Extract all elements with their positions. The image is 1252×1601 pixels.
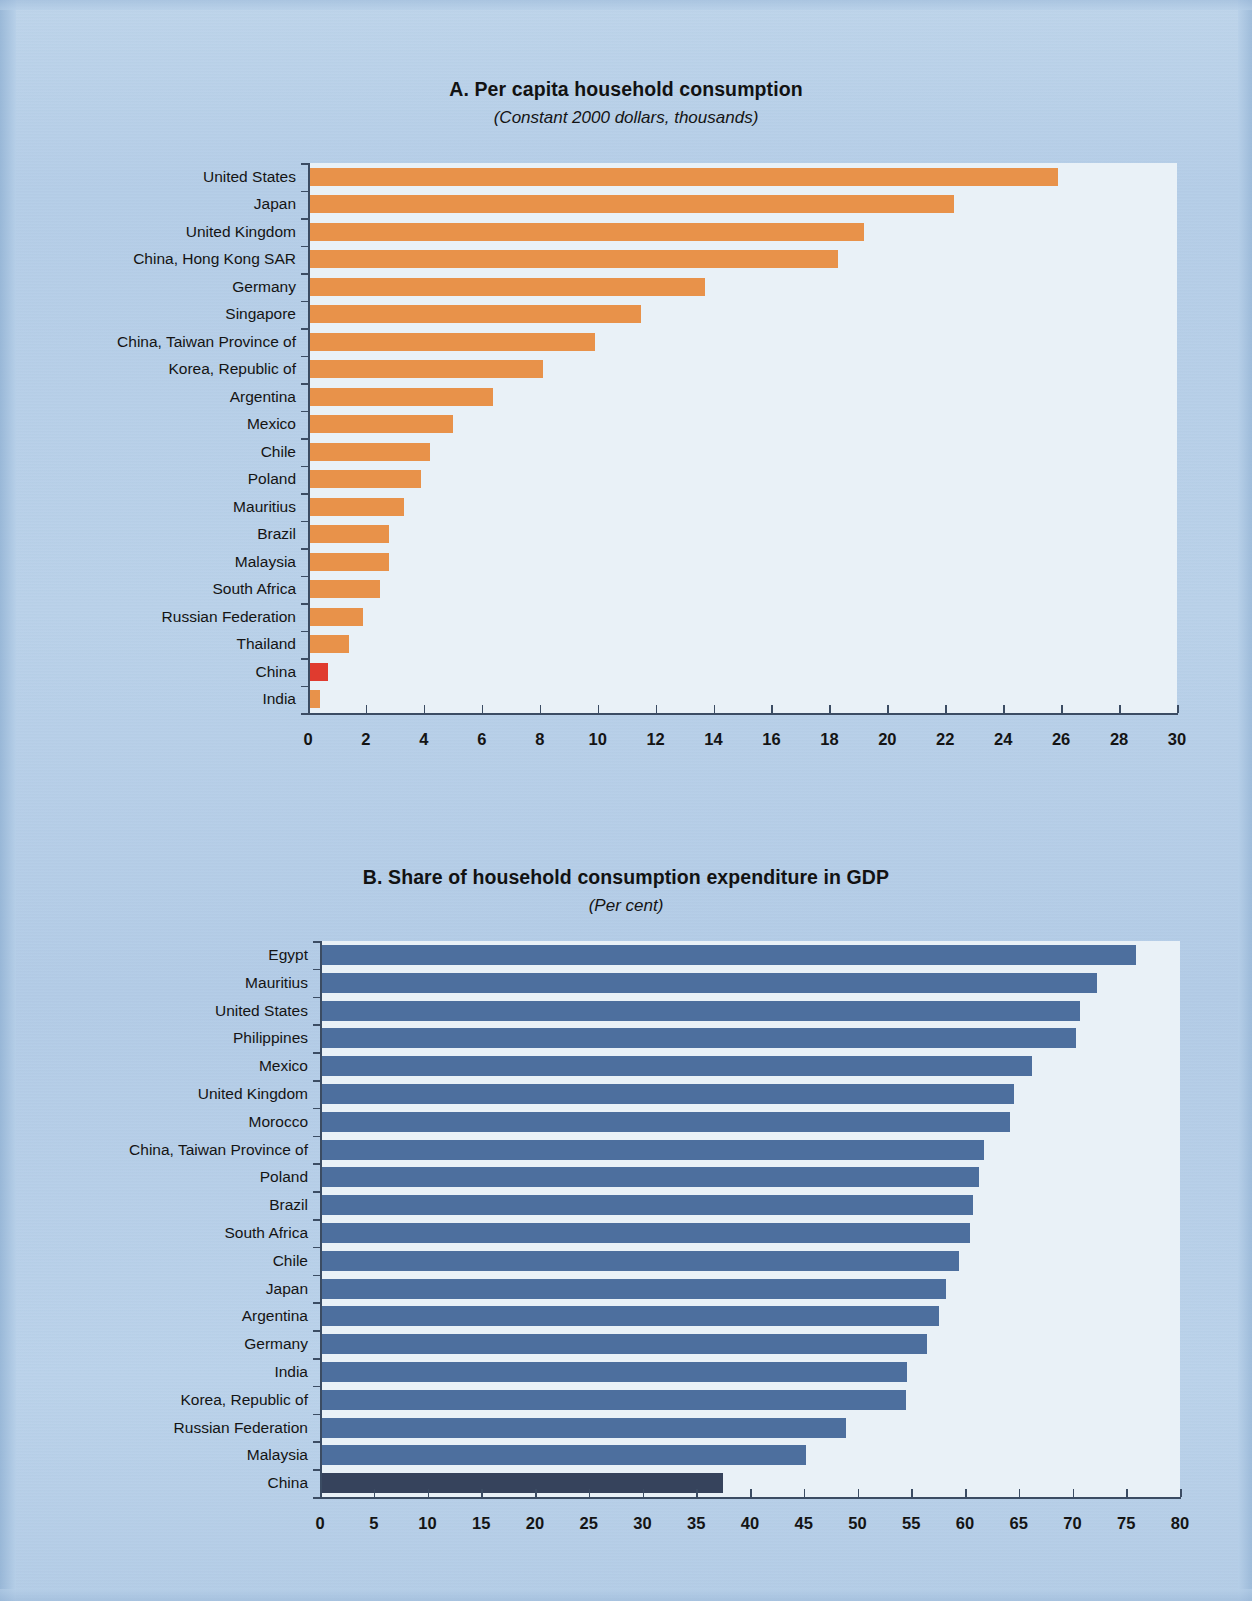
chart-b-x-tick [1019,1489,1021,1497]
chart-b-x-tick [481,1489,483,1497]
chart-b-x-tick [428,1489,430,1497]
chart-b-category-label: Korea, Republic of [0,1392,308,1408]
chart-b-x-tick-label: 5 [369,1515,378,1532]
chart-b-bar [320,1056,1032,1076]
chart-b-x-tick-label: 55 [902,1515,920,1532]
chart-b-category-label: Mauritius [0,975,308,991]
chart-b-bar [320,1028,1076,1048]
chart-b-x-tick [696,1489,698,1497]
chart-b-bar [320,945,1136,965]
chart-b-x-tick-label: 75 [1117,1515,1135,1532]
chart-b-plot-area [320,941,1180,1497]
chart-b-x-tick [1126,1489,1128,1497]
chart-b-bar [320,1473,723,1493]
chart-b-x-tick [535,1489,537,1497]
chart-b-x-tick-label: 20 [526,1515,544,1532]
chart-b-bar [320,973,1097,993]
chart-b-category-label: Brazil [0,1197,308,1213]
chart-b-bar [320,1167,979,1187]
chart-b-x-axis [320,1497,1181,1499]
chart-b-bar [320,1251,959,1271]
chart-b-x-tick [911,1489,913,1497]
chart-b-bar [320,1112,1010,1132]
chart-b-x-tick-label: 35 [687,1515,705,1532]
chart-b-x-tick-label: 30 [633,1515,651,1532]
chart-b-bar [320,1334,927,1354]
chart-b-category-label: Russian Federation [0,1420,308,1436]
chart-b-category-label: China [0,1475,308,1491]
chart-b-bar [320,1223,970,1243]
chart-b-x-tick-label: 45 [795,1515,813,1532]
chart-b-bar [320,1001,1080,1021]
chart-b: EgyptMauritiusUnited StatesPhilippinesMe… [0,0,1252,1601]
chart-b-category-label: Mexico [0,1058,308,1074]
chart-b-x-tick [965,1489,967,1497]
chart-b-x-tick [374,1489,376,1497]
chart-b-category-label: Philippines [0,1030,308,1046]
chart-b-x-tick [1180,1489,1182,1497]
chart-b-category-label: India [0,1364,308,1380]
chart-b-bar [320,1306,939,1326]
chart-b-x-tick [589,1489,591,1497]
chart-b-category-label: United States [0,1003,308,1019]
chart-b-x-tick [643,1489,645,1497]
chart-b-x-tick-label: 25 [580,1515,598,1532]
chart-b-category-label: China, Taiwan Province of [0,1142,308,1158]
chart-b-x-tick-label: 10 [418,1515,436,1532]
chart-b-category-label: United Kingdom [0,1086,308,1102]
chart-b-category-label: Chile [0,1253,308,1269]
chart-b-x-tick [750,1489,752,1497]
chart-b-category-label: Japan [0,1281,308,1297]
chart-b-category-label: Argentina [0,1308,308,1324]
chart-b-bar [320,1390,906,1410]
chart-b-category-label: Poland [0,1169,308,1185]
chart-b-x-tick [1073,1489,1075,1497]
chart-b-x-tick-label: 70 [1063,1515,1081,1532]
chart-b-x-tick [804,1489,806,1497]
chart-b-x-tick-label: 15 [472,1515,490,1532]
chart-b-bar [320,1084,1014,1104]
chart-b-bar [320,1362,907,1382]
chart-b-x-tick-label: 50 [848,1515,866,1532]
chart-b-category-label: South Africa [0,1225,308,1241]
chart-b-x-tick-label: 80 [1171,1515,1189,1532]
chart-b-bar [320,1140,984,1160]
chart-b-x-tick-label: 65 [1010,1515,1028,1532]
chart-b-category-label: Morocco [0,1114,308,1130]
chart-b-bar [320,1445,806,1465]
chart-b-x-tick [858,1489,860,1497]
chart-b-bar [320,1195,973,1215]
chart-b-x-tick-label: 40 [741,1515,759,1532]
chart-b-category-label: Malaysia [0,1447,308,1463]
chart-b-x-tick-label: 60 [956,1515,974,1532]
chart-b-x-tick [320,1489,322,1497]
chart-b-category-label: Egypt [0,947,308,963]
chart-b-y-axis [320,941,322,1498]
chart-b-category-label: Germany [0,1336,308,1352]
chart-b-bar [320,1279,946,1299]
chart-b-bar [320,1418,846,1438]
chart-b-x-tick-label: 0 [315,1515,324,1532]
